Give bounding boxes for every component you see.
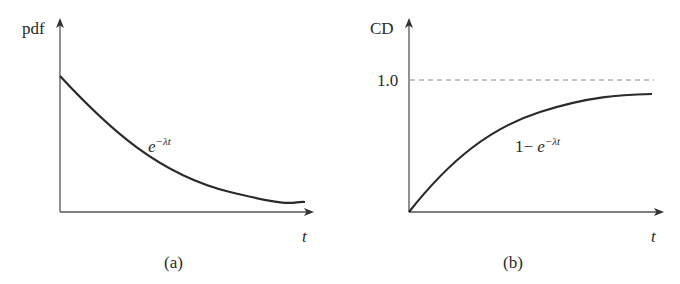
panel-b-y-axis-label: CD — [370, 20, 394, 37]
panel-a-plot — [60, 20, 312, 212]
panel-a-caption: (a) — [164, 254, 183, 271]
panel-b-x-axis-label: t — [651, 228, 656, 245]
figure-canvas — [0, 0, 680, 284]
panel-b-curve-label-prefix: 1− — [515, 137, 533, 156]
panel-a-x-axis-label: t — [302, 228, 307, 245]
panel-b-curve-label: 1− e−λt — [515, 136, 560, 155]
panel-a-decay-curve — [60, 76, 305, 203]
panel-b-y-tick-label: 1.0 — [377, 72, 398, 89]
panel-a-curve-label-exponent: −λt — [156, 135, 171, 147]
panel-b-curve-label-base: e — [537, 137, 545, 156]
panel-a-y-axis-label: pdf — [22, 20, 45, 37]
panel-a-curve-label: e−λt — [148, 136, 171, 155]
panel-b-plot — [409, 20, 662, 212]
panel-a-curve-label-base: e — [148, 137, 156, 156]
panel-b-curve-label-exponent: −λt — [545, 135, 560, 147]
panel-b-caption: (b) — [503, 254, 523, 271]
